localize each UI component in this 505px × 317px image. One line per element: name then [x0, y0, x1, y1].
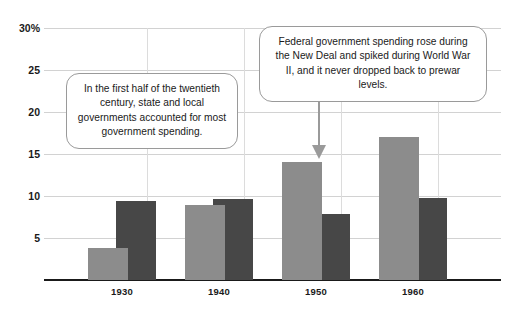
bar-1950-state-local	[282, 162, 322, 280]
y-axis: 30% 25 20 15 10 5	[0, 28, 40, 280]
y-axis-tick-30: 30%	[0, 23, 40, 34]
series-name-state-local: State and local government spending	[0, 0, 1, 1]
y-axis-tick-25: 25	[0, 65, 40, 76]
bar-chart: 30% 25 20 15 10 5 1930	[0, 0, 505, 317]
x-axis-tick-1940: 1940	[174, 286, 264, 297]
y-axis-tick-5: 5	[0, 233, 40, 244]
annotation-callout-federal: Federal government spending rose during …	[259, 26, 487, 102]
x-axis-tick-1930: 1930	[77, 286, 167, 297]
gridline-15	[44, 154, 501, 155]
annotation-callout-state-local: In the first half of the twentieth centu…	[66, 73, 238, 149]
x-axis-tick-1950: 1950	[271, 286, 361, 297]
bar-1960-state-local	[379, 137, 419, 280]
y-axis-tick-15: 15	[0, 149, 40, 160]
y-axis-tick-20: 20	[0, 107, 40, 118]
bar-1940-state-local	[185, 205, 225, 280]
down-arrow-icon	[307, 99, 331, 161]
x-axis: 1930 1940 1950 1960	[44, 286, 501, 306]
y-axis-tick-10: 10	[0, 191, 40, 202]
x-axis-tick-1960: 1960	[368, 286, 458, 297]
bar-1930-state-local	[88, 248, 128, 280]
series-name-federal: Federal government spending	[0, 0, 1, 1]
